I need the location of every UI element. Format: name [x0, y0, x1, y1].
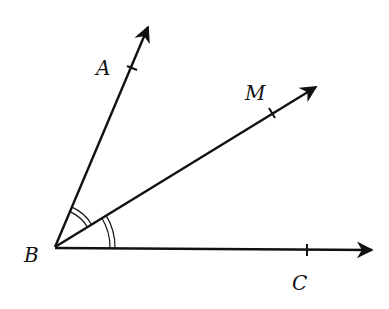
- label-a: A: [94, 56, 110, 80]
- angle-mark-abm-outer: [72, 207, 91, 224]
- label-m: M: [244, 81, 266, 105]
- angle-mark-mbc-inner: [102, 218, 110, 248]
- angle-diagram: A M C B: [0, 0, 389, 309]
- label-c: C: [292, 271, 307, 295]
- ray-bc: [55, 248, 372, 250]
- angle-mark-abm-inner: [71, 212, 88, 227]
- label-b: B: [23, 243, 39, 267]
- ray-bm: [55, 87, 316, 247]
